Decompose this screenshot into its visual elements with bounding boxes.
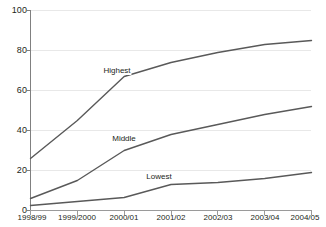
x-tick-label-1: 1999/2000 — [58, 213, 96, 222]
plot-area — [0, 0, 326, 227]
x-tick-label-4: 2002/03 — [204, 213, 233, 222]
x-tick-label-6: 2004/05 — [291, 213, 320, 222]
series-label-lowest: Lowest — [145, 172, 172, 181]
x-tick-label-0: 1998/99 — [18, 213, 47, 222]
x-axis: 1998/99 1999/2000 2000/01 2001/02 2002/0… — [0, 213, 326, 227]
series-label-highest: Highest — [102, 66, 131, 75]
x-tick-label-3: 2001/02 — [157, 213, 186, 222]
x-tick-label-5: 2003/04 — [251, 213, 280, 222]
series-line-highest — [31, 41, 312, 159]
x-tick-label-2: 2000/01 — [110, 213, 139, 222]
series-label-middle: Middle — [111, 134, 137, 143]
line-chart: 100 80 60 40 20 0 — [0, 0, 326, 227]
y-axis-line — [26, 10, 31, 211]
gridlines — [30, 11, 311, 171]
